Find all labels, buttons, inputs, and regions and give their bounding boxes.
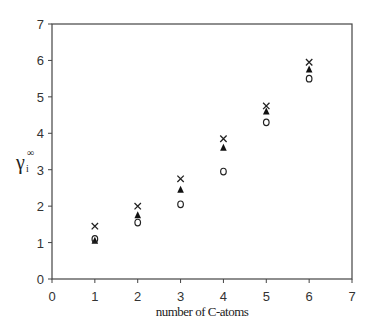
- circle-marker: [135, 219, 141, 226]
- y-tick-label: 0: [37, 272, 44, 287]
- cross-marker: [220, 136, 226, 142]
- cross-marker: [177, 176, 183, 182]
- x-tick-label: 0: [48, 289, 55, 304]
- y-tick-label: 6: [37, 53, 44, 68]
- y-tick-label: 1: [37, 236, 44, 251]
- x-tick-label: 4: [220, 289, 227, 304]
- triangle-marker: [134, 211, 141, 218]
- x-axis: 01234567: [48, 279, 355, 304]
- circle-marker: [306, 75, 312, 82]
- triangle-marker: [220, 144, 227, 151]
- x-tick-label: 6: [306, 289, 313, 304]
- y-axis-label-superscript: ∞: [27, 147, 34, 158]
- x-tick-label: 2: [134, 289, 141, 304]
- series-cross: [92, 59, 313, 229]
- x-tick-label: 1: [91, 289, 98, 304]
- x-axis-label: number of C-atoms: [156, 304, 249, 319]
- series-open-circle: [92, 75, 312, 242]
- y-tick-label: 7: [37, 17, 44, 32]
- y-axis-label: γ i ∞: [15, 147, 34, 174]
- y-axis-label-subscript: i: [26, 163, 29, 174]
- x-tick-label: 7: [348, 289, 355, 304]
- triangle-marker: [306, 66, 313, 73]
- circle-marker: [221, 168, 227, 175]
- y-axis-label-main: γ: [15, 151, 25, 174]
- cross-marker: [306, 59, 312, 65]
- y-tick-label: 2: [37, 199, 44, 214]
- y-tick-label: 4: [37, 126, 44, 141]
- triangle-marker: [177, 186, 184, 193]
- y-tick-label: 5: [37, 90, 44, 105]
- series-filled-triangle: [92, 66, 313, 244]
- circle-marker: [263, 119, 269, 126]
- x-tick-label: 3: [177, 289, 184, 304]
- cross-marker: [92, 223, 98, 229]
- y-tick-label: 3: [37, 163, 44, 178]
- data-points: [92, 59, 313, 244]
- cross-marker: [135, 203, 141, 209]
- scatter-chart: 01234567 01234567 number of C-atoms γ i …: [0, 0, 374, 332]
- y-axis: 01234567: [37, 17, 52, 287]
- circle-marker: [178, 201, 184, 208]
- x-tick-label: 5: [263, 289, 270, 304]
